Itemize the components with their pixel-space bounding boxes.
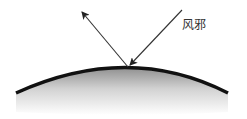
wind-evil-incoming-arrow [130,10,182,65]
deflected-arrow [82,12,128,67]
shaded-body [16,68,228,116]
wind-evil-label: 风邪 [182,15,206,32]
diagram-canvas [0,0,247,119]
